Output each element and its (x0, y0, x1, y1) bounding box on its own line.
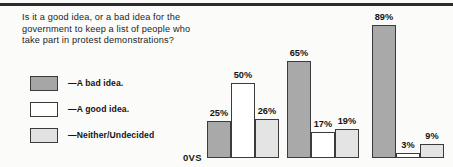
legend-item-bad-idea: —A bad idea. (30, 72, 154, 94)
bar-neither-undecided (335, 129, 359, 158)
bar-neither-undecided (420, 144, 444, 158)
bar-value-label: 9% (425, 131, 438, 141)
bar-bad-idea (287, 61, 311, 158)
survey-chart-figure: Is it a good idea, or a bad idea for the… (0, 0, 453, 167)
legend-item-neither-undecided: —Neither/Undecided (30, 124, 154, 146)
bar-value-label: 50% (234, 70, 253, 80)
legend-item-good-idea: —A good idea. (30, 98, 154, 120)
bar-chart-plot-area: 0VS 25% 50% 26% 65% 17% (180, 0, 453, 167)
light-gray-swatch-icon (30, 128, 58, 143)
bar-group-3: 89% 3% 9% (372, 8, 444, 158)
bar-value-label: 26% (258, 106, 277, 116)
bar-group-1: 25% 50% 26% (207, 8, 279, 158)
legend-item-label: —A good idea. (68, 104, 129, 114)
legend-item-label: —A bad idea. (68, 78, 123, 88)
bar-value-label: 19% (338, 116, 357, 126)
bar-group-2: 65% 17% 19% (287, 8, 359, 158)
chart-legend: —A bad idea. —A good idea. —Neither/Unde… (30, 72, 154, 150)
bar-bad-idea (372, 25, 396, 158)
bar-value-label: 3% (401, 140, 414, 150)
bar-value-label: 17% (314, 119, 333, 129)
bar-bad-idea (207, 121, 231, 158)
bar-neither-undecided (255, 119, 279, 158)
white-swatch-icon (30, 102, 58, 117)
bar-good-idea (396, 153, 420, 158)
bar-value-label: 65% (290, 48, 309, 58)
bar-value-label: 89% (375, 12, 394, 22)
bar-value-label: 25% (210, 108, 229, 118)
bar-good-idea (311, 132, 335, 158)
bar-good-idea (231, 83, 255, 158)
dark-gray-swatch-icon (30, 76, 58, 91)
legend-item-label: —Neither/Undecided (68, 130, 154, 140)
axis-origin-label: 0VS (183, 152, 202, 163)
